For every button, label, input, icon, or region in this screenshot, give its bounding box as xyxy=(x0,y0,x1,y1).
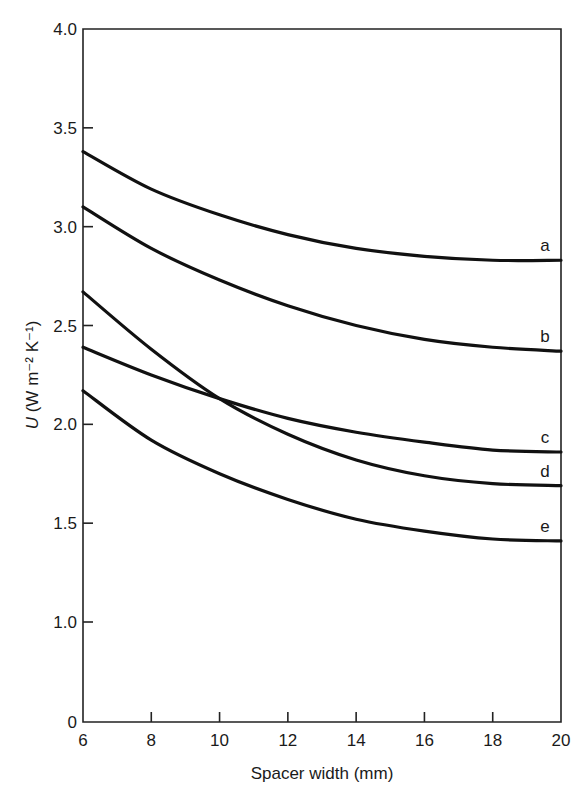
x-axis-title: Spacer width (mm) xyxy=(251,764,394,783)
line-chart: 68101214161820 01.01.52.02.53.03.54.0 ab… xyxy=(0,0,587,793)
curve-label-c: c xyxy=(541,428,550,447)
x-tick-label: 14 xyxy=(347,731,366,750)
y-tick-label: 3.5 xyxy=(53,119,77,138)
plot-curves: abcde xyxy=(83,152,561,541)
y-tick-label: 3.0 xyxy=(53,218,77,237)
y-tick-label: 1.5 xyxy=(53,514,77,533)
curve-label-e: e xyxy=(540,517,549,536)
curve-d xyxy=(83,292,561,486)
x-tick-label: 6 xyxy=(78,731,87,750)
y-tick-label: 2.0 xyxy=(53,415,77,434)
curve-label-b: b xyxy=(540,327,549,346)
x-tick-label: 20 xyxy=(552,731,571,750)
curve-e xyxy=(83,391,561,541)
curve-b xyxy=(83,207,561,351)
curve-label-a: a xyxy=(540,236,550,255)
y-tick-label: 4.0 xyxy=(53,20,77,39)
curve-a xyxy=(83,152,561,261)
curve-label-d: d xyxy=(540,462,549,481)
y-tick-label: 1.0 xyxy=(53,613,77,632)
x-tick-label: 8 xyxy=(147,731,156,750)
curve-c xyxy=(83,347,561,452)
y-axis: 01.01.52.02.53.03.54.0 xyxy=(53,20,93,732)
x-tick-label: 12 xyxy=(278,731,297,750)
x-tick-label: 18 xyxy=(483,731,502,750)
y-tick-label: 0 xyxy=(68,713,77,732)
x-axis: 68101214161820 xyxy=(78,712,570,750)
x-tick-label: 16 xyxy=(415,731,434,750)
y-axis-title: U (W m⁻² K⁻¹) xyxy=(23,321,42,430)
x-tick-label: 10 xyxy=(210,731,229,750)
y-tick-label: 2.5 xyxy=(53,317,77,336)
